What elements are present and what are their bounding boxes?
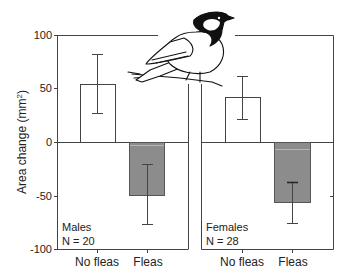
females-no-fleas-bar bbox=[226, 76, 261, 143]
x-tick-labels: No fleas Fleas No fleas Fleas bbox=[75, 255, 308, 269]
bar-chart: Area change (mm2) 100 50 0 -50 -100 bbox=[0, 0, 348, 277]
y-tick-50: 50 bbox=[40, 82, 52, 94]
y-tick-neg50: -50 bbox=[36, 190, 52, 202]
females-x-label-no-fleas: No fleas bbox=[220, 255, 264, 269]
males-label: Males bbox=[62, 221, 92, 233]
females-fleas-bar bbox=[275, 143, 311, 224]
y-tick-100: 100 bbox=[34, 29, 52, 41]
females-x-label-fleas: Fleas bbox=[278, 255, 307, 269]
females-label: Females bbox=[206, 221, 249, 233]
y-tick-0: 0 bbox=[46, 136, 52, 148]
males-n-label: N = 20 bbox=[62, 235, 95, 247]
females-n-label: N = 28 bbox=[206, 235, 239, 247]
y-tick-neg100: -100 bbox=[30, 243, 52, 255]
males-no-fleas-bar bbox=[81, 54, 116, 143]
y-axis-label: Area change (mm2) bbox=[15, 90, 29, 194]
males-x-label-fleas: Fleas bbox=[133, 255, 162, 269]
y-tick-labels: 100 50 0 -50 -100 bbox=[30, 29, 52, 255]
males-fleas-bar bbox=[130, 143, 165, 225]
males-x-label-no-fleas: No fleas bbox=[75, 255, 119, 269]
bird-illustration-icon bbox=[128, 12, 234, 86]
